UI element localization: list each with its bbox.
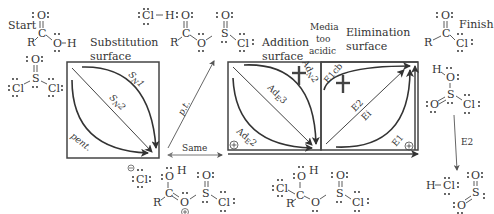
svg-text:R: R [286,197,295,210]
svg-text:C: C [442,27,450,40]
svg-text:S: S [221,27,229,40]
svg-text:S: S [202,187,210,200]
svg-text:C: C [38,27,46,40]
carboxylic-acid-molecule: Start O C R O H [8,9,77,52]
svg-text:O: O [441,9,450,22]
media-too-acidic-label: Media too acidic [309,22,339,56]
hydrogen-chloride-top: Cl H [138,8,174,25]
finish-label: Finish [459,18,493,31]
svg-text:surface: surface [90,50,131,63]
proton-transfer-arrow: p.t. [168,61,214,148]
addition-surface-label: Addition [261,36,309,49]
svg-text:Cl: Cl [456,37,468,50]
e1cb-label: E1cb [322,61,345,85]
svg-text:R: R [153,196,162,209]
adn2-path [244,65,316,144]
svg-text:H: H [426,179,436,192]
svg-text:surface: surface [262,50,303,63]
svg-text:too: too [316,34,330,44]
svg-text:C: C [182,27,190,40]
sulfur-dioxide-molecule: O S O [453,169,485,214]
hydrogen-chloride-bottom: H Cl [426,177,459,195]
pent-label: pent. [69,131,94,153]
svg-text:H: H [177,164,187,177]
svg-text:O: O [31,53,40,66]
svg-text:S: S [447,88,455,101]
pt-label: p.t. [176,99,192,117]
svg-text:Cl: Cl [276,182,288,195]
substitution-surface-label: Substitution [90,36,158,49]
svg-text:Cl: Cl [443,179,455,192]
svg-text:Cl: Cl [352,196,364,209]
svg-text:Cl: Cl [142,9,154,22]
svg-text:Cl: Cl [237,37,249,50]
substitution-surface-box: SN1 SN2 pent. [67,62,159,158]
forbidden-cross-icon [336,75,350,93]
svg-text:surface: surface [346,40,387,53]
svg-text:O: O [53,37,62,50]
svg-text:H: H [165,9,175,22]
svg-text:O: O [457,199,466,212]
start-label: Start [8,19,37,32]
svg-text:Cl: Cl [12,82,24,95]
svg-text:Cl: Cl [136,173,148,186]
svg-text:O: O [446,71,455,84]
svg-text:O: O [311,196,320,209]
svg-text:Media: Media [310,22,339,32]
same-double-arrow: Same [168,143,222,155]
acyl-chloride-molecule: O Finish C R Cl [424,9,493,52]
svg-text:S: S [32,72,40,85]
svg-text:O: O [165,170,174,183]
svg-text:R: R [27,36,36,49]
tetrahedral-intermediate: O H C Cl R O O S Cl [272,164,369,212]
addition-surface-box: AdN2 AdE3 AdE2 [228,57,321,150]
svg-text:C: C [165,187,173,200]
ade2-label: AdE2 [233,125,259,150]
e2-path [326,70,404,144]
svg-text:O: O [181,9,190,22]
svg-text:O: O [37,9,46,22]
svg-text:O: O [221,9,230,22]
chloride-anion: Cl [128,165,151,188]
svg-text:Cl: Cl [48,82,60,95]
svg-text:O: O [336,169,345,182]
svg-text:H: H [67,37,77,50]
svg-text:O: O [297,170,306,183]
protonated-intermediate: O H C R O O S Cl [153,164,235,214]
svg-text:O: O [202,169,211,182]
thionyl-chloride-molecule: O S Cl Cl [8,53,63,97]
chlorosulfurous-acid-molecule: H O S O Cl [426,63,480,114]
same-label: Same [182,143,207,153]
svg-text:S: S [336,187,344,200]
svg-text:Cl: Cl [218,196,230,209]
ade3-label: AdE3 [263,82,289,108]
reaction-mechanism-diagram: Start O C R O H O S Cl Cl Substitut [0,0,494,214]
elimination-surface-label: Elimination [346,26,410,39]
chlorosulfite-ester-molecule: O C R O O S Cl [170,9,254,52]
svg-text:H: H [309,164,319,177]
svg-text:O: O [180,196,189,209]
sn2-label: SN2 [106,92,127,113]
svg-text:C: C [296,189,304,202]
e2-decomposition-arrow: E2 [454,115,473,170]
e2-vertical-label: E2 [461,137,473,147]
svg-text:H: H [432,63,442,76]
svg-text:acidic: acidic [309,46,336,56]
svg-text:R: R [170,36,179,49]
svg-text:S: S [472,186,480,199]
svg-text:O: O [471,169,480,182]
svg-text:O: O [430,98,439,111]
svg-text:O: O [197,37,206,50]
elimination-surface-box: E1cb E2 Ei E1 [321,61,418,150]
e1-label: E1 [390,132,406,148]
svg-text:Cl: Cl [463,98,475,111]
svg-text:R: R [424,36,433,49]
